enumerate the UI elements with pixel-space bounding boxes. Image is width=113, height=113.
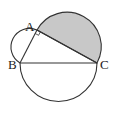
- label-a: A: [25, 19, 35, 34]
- shaded-semicircle-ac: [37, 12, 101, 63]
- label-c: C: [100, 57, 109, 72]
- side-ab: [20, 30, 37, 63]
- semicircle-bc: [20, 63, 97, 101]
- geometry-diagram: A B C: [0, 0, 113, 113]
- label-b: B: [8, 57, 17, 72]
